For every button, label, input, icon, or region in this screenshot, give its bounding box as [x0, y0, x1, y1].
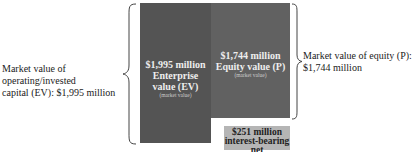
left-brace-icon	[122, 3, 138, 145]
ev-description-label: Market value of operating/invested capit…	[2, 63, 132, 99]
debt-title-line1: interest-bearing net	[224, 137, 290, 152]
equity-amount: $1,744 million	[211, 50, 290, 61]
right-brace-icon	[291, 3, 303, 120]
net-debt-box: $251 million interest-bearing net debt (…	[224, 126, 290, 150]
equity-description-line2: $1,744 million	[303, 62, 418, 74]
equity-title: Equity value (P)	[211, 61, 290, 72]
ev-title-line1: Enterprise	[140, 70, 211, 81]
equity-note: (market value)	[211, 72, 290, 79]
ev-description-line2: capital (EV): $1,995 million	[2, 87, 132, 99]
ev-description-line1: Market value of operating/invested	[2, 63, 132, 87]
ev-note: (market value)	[140, 92, 211, 99]
equity-value-box: $1,744 million Equity value (P) (market …	[211, 3, 290, 118]
ev-title-line2: value (EV)	[140, 81, 211, 92]
ev-amount: $1,995 million	[140, 59, 211, 70]
equity-description-label: Market value of equity (P): $1,744 milli…	[303, 50, 418, 74]
enterprise-value-box: $1,995 million Enterprise value (EV) (ma…	[140, 3, 211, 143]
equity-description-line1: Market value of equity (P):	[303, 50, 418, 62]
